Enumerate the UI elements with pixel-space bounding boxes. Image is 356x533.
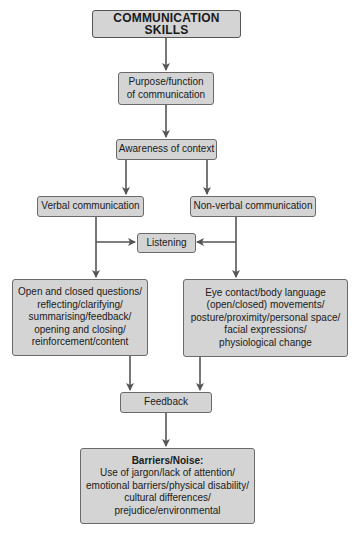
nonverbal-skill-line: physiological change	[219, 337, 312, 350]
nonverbal-skills-node: Eye contact/body language (open/closed) …	[183, 279, 348, 357]
nonverbal-skill-line: facial expressions/	[224, 324, 306, 337]
verbal-text: Verbal communication	[41, 200, 139, 213]
title-text: COMMUNICATION SKILLS	[93, 12, 240, 37]
verbal-node: Verbal communication	[37, 196, 144, 217]
purpose-line: Purpose/function	[128, 76, 203, 89]
barriers-heading: Barriers/Noise:	[132, 455, 204, 468]
barriers-line: Use of jargon/lack of attention/	[100, 467, 235, 480]
barriers-line: cultural differences/	[124, 492, 211, 505]
verbal-skill-line: summarising/feedback/	[29, 311, 132, 324]
verbal-skill-line: opening and closing/	[34, 324, 126, 337]
verbal-skills-node: Open and closed questions/ reflecting/cl…	[12, 279, 148, 356]
nonverbal-node: Non-verbal communication	[190, 196, 316, 217]
nonverbal-skill-line: Eye contact/body language	[205, 287, 326, 300]
awareness-text: Awareness of context	[119, 143, 214, 156]
listening-text: Listening	[146, 237, 186, 250]
feedback-text: Feedback	[144, 396, 188, 409]
purpose-line: of communication	[127, 89, 205, 102]
nonverbal-skill-line: (open/closed) movements/	[207, 299, 325, 312]
barriers-node: Barriers/Noise: Use of jargon/lack of at…	[80, 448, 255, 524]
barriers-line: emotional barriers/physical disability/	[86, 480, 249, 493]
barriers-line: prejudice/environmental	[114, 505, 220, 518]
verbal-skill-line: reinforcement/content	[32, 336, 129, 349]
purpose-node: Purpose/function of communication	[118, 72, 214, 105]
title-node: COMMUNICATION SKILLS	[92, 10, 241, 38]
feedback-node: Feedback	[120, 392, 212, 413]
verbal-skill-line: Open and closed questions/	[18, 286, 142, 299]
listening-node: Listening	[137, 233, 196, 253]
nonverbal-skill-line: posture/proximity/personal space/	[191, 312, 341, 325]
awareness-node: Awareness of context	[116, 139, 217, 160]
nonverbal-text: Non-verbal communication	[194, 200, 313, 213]
verbal-skill-line: reflecting/clarifying/	[37, 299, 123, 312]
